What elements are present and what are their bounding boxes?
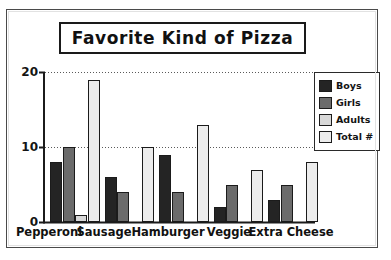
bar-total-sausage [142,147,154,222]
chart-window-frame: Favorite Kind of Pizza 01020 PepperoniSa… [6,9,378,248]
legend-item-girls[interactable]: Girls [319,94,376,111]
bar-boys-extra-cheese [268,200,280,223]
x-axis-label-veggie: Veggie [207,225,251,239]
legend-item-boys[interactable]: Boys [319,77,376,94]
legend-label-total: Total # [336,131,373,142]
x-axis-label-pepperoni: Pepperoni [16,225,82,239]
x-axis-label-sausage: Sausage [77,225,132,239]
bar-adults-pepperoni [75,215,87,223]
bar-boys-sausage [105,177,117,222]
bar-girls-veggie [226,185,238,223]
bar-girls-hamburger [172,192,184,222]
legend-item-adults[interactable]: Adults [319,111,376,128]
bar-total-extra-cheese [306,162,318,222]
y-axis-tick-label: 10 [21,140,38,154]
bar-total-pepperoni [88,80,100,223]
bar-total-veggie [251,170,263,223]
bar-boys-veggie [214,207,226,222]
legend-swatch-icon-adults [319,114,332,126]
legend-swatch-icon-girls [319,97,332,109]
x-axis-label-extra-cheese: Extra Cheese [248,225,333,239]
bar-girls-pepperoni [63,147,75,222]
bars-layer [43,72,315,222]
bar-total-hamburger [197,125,209,223]
legend-swatch-icon-boys [319,80,332,92]
bar-boys-pepperoni [50,162,62,222]
legend-label-adults: Adults [336,114,370,125]
bar-boys-hamburger [159,155,171,223]
legend-label-boys: Boys [336,80,362,91]
y-axis-tick-label: 20 [21,65,38,79]
chart-title-box: Favorite Kind of Pizza [59,22,306,54]
legend-item-total[interactable]: Total # [319,128,376,145]
legend-swatch-icon-total [319,131,332,143]
x-axis-label-hamburger: Hamburger [131,225,204,239]
plot-area: 01020 [43,72,315,224]
page-title: Favorite Kind of Pizza [72,28,294,48]
legend-label-girls: Girls [336,97,361,108]
bar-girls-sausage [117,192,129,222]
x-axis-category-labels: PepperoniSausageHamburgerVeggieExtra Che… [37,225,327,243]
bar-girls-extra-cheese [281,185,293,223]
chart-legend[interactable]: Boys Girls Adults Total # [314,72,380,151]
